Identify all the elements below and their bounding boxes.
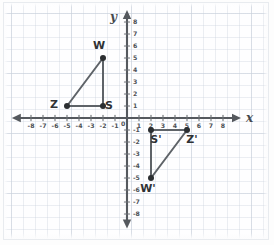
x-axis-tick-label: -5: [64, 122, 71, 129]
y-axis-tick-label: 8: [133, 18, 137, 25]
x-axis-label: x: [245, 111, 254, 125]
vertex-label-s: S: [105, 99, 113, 112]
x-axis-tick-label: -2: [100, 122, 107, 129]
x-axis-tick-label: 6: [197, 122, 201, 129]
y-axis-tick-label: 4: [133, 66, 138, 73]
x-axis-tick-label: -1: [112, 122, 119, 129]
vertex-point: [100, 55, 106, 61]
y-axis-tick-label: 5: [133, 54, 137, 61]
vertex-point: [64, 103, 70, 109]
vertex-point: [148, 175, 154, 181]
x-axis-tick-label: -7: [40, 122, 47, 129]
x-axis-tick-label: 4: [173, 122, 178, 129]
x-axis-tick-label: -3: [88, 122, 95, 129]
y-axis-tick-label: -4: [133, 162, 141, 169]
x-axis-tick-label: 8: [221, 122, 225, 129]
y-axis-tick-label: -7: [133, 198, 140, 205]
y-axis-tick-label: -1: [133, 126, 140, 133]
x-axis-tick-label: -6: [52, 122, 59, 129]
y-axis-tick-label: 1: [133, 102, 137, 109]
vertex-label-w: W: [93, 39, 105, 52]
x-axis-left-arrow-icon: [12, 114, 21, 122]
origin-label: 0: [121, 120, 126, 127]
coordinate-plane: -8-7-6-5-4-3-2-11234567887654321-1-2-3-4…: [0, 0, 274, 245]
y-axis-tick-label: -3: [133, 150, 140, 157]
screenshot-root: -8-7-6-5-4-3-2-11234567887654321-1-2-3-4…: [0, 0, 274, 245]
y-axis-tick-label: -8: [133, 210, 140, 217]
y-axis-tick-label: -6: [133, 186, 140, 193]
y-axis-tick-label: -2: [133, 138, 140, 145]
triangle-outline: [67, 58, 103, 106]
y-axis-tick-label: 3: [133, 78, 137, 85]
vertex-label-w-prime: W': [140, 182, 156, 195]
vertex-label-z: Z: [50, 98, 58, 111]
y-axis-tick-label: 7: [133, 30, 137, 37]
x-axis-tick-label: 3: [161, 122, 165, 129]
y-axis-tick-label: 6: [133, 42, 137, 49]
x-axis-tick-label: 7: [209, 122, 213, 129]
x-axis-right-arrow-icon: [232, 114, 241, 122]
vertex-label-z-prime: Z': [186, 133, 197, 146]
vertex-label-s-prime: S': [150, 133, 161, 146]
y-axis-down-arrow-icon: [123, 219, 131, 228]
y-axis-tick-label: -5: [133, 174, 140, 181]
y-axis-label: y: [109, 10, 118, 24]
axes-group: [12, 10, 241, 228]
y-axis-tick-label: 2: [133, 90, 137, 97]
y-axis-up-arrow-icon: [123, 10, 131, 19]
x-axis-tick-label: -8: [28, 122, 35, 129]
x-axis-tick-label: -4: [76, 122, 84, 129]
